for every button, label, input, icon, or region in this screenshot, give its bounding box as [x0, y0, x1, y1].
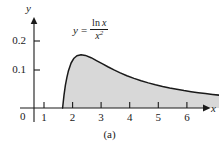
y-axis-arrowhead: [31, 17, 38, 24]
x-axis-label: x: [211, 103, 216, 114]
x-tick-label-2: 3: [93, 112, 109, 123]
equation-equals-sign: =: [81, 24, 87, 36]
equation-denominator-exponent: 2: [100, 29, 104, 37]
equation-fraction: ln x x2: [90, 18, 108, 41]
x-tick-label-1: 2: [65, 112, 81, 123]
equation-lhs: y: [73, 24, 78, 36]
equation-numerator-variable: x: [102, 17, 106, 28]
x-tick-label-5: 6: [179, 112, 195, 123]
equation-denominator: x2: [93, 30, 105, 41]
natural-log-symbol: ln: [92, 17, 100, 28]
y-tick-label-1: 0.1: [2, 64, 26, 75]
y-tick-label-0: 0.2: [2, 35, 26, 46]
plot-area: [0, 0, 219, 147]
x-tick-label-3: 4: [122, 112, 138, 123]
equation-annotation: y = ln x x2: [73, 18, 108, 41]
origin-label: 0: [20, 111, 26, 122]
y-axis-label: y: [26, 3, 31, 14]
figure-caption: (a): [0, 128, 219, 140]
x-tick-label-4: 5: [150, 112, 166, 123]
x-tick-label-0: 1: [36, 112, 52, 123]
equation-numerator: ln x: [90, 18, 108, 29]
figure-panel: y x 0 0.2 0.1 1 2 3 4 5 6 y = ln x x2 (a…: [0, 0, 219, 147]
